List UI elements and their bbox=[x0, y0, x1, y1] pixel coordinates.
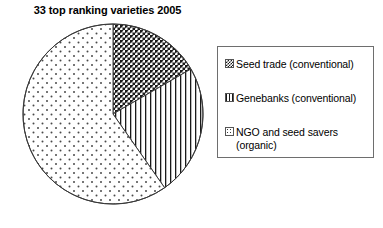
legend-item-genebanks: Genebanks (conventional) bbox=[225, 92, 371, 105]
chart-legend: Seed trade (conventional) Genebanks (con… bbox=[217, 46, 374, 158]
legend-item-ngo-seed-savers: NGO and seed savers (organic) bbox=[225, 126, 371, 151]
pie-chart-figure: 33 top ranking varieties 2005 bbox=[0, 0, 383, 228]
legend-label-ngo-seed-savers: NGO and seed savers (organic) bbox=[236, 126, 338, 151]
legend-label-genebanks: Genebanks (conventional) bbox=[236, 92, 356, 105]
checkerboard-swatch-icon bbox=[225, 59, 234, 68]
legend-label-seed-trade: Seed trade (conventional) bbox=[236, 58, 354, 71]
dots-swatch-icon bbox=[225, 127, 234, 136]
vertical-lines-swatch-icon bbox=[225, 93, 234, 102]
legend-item-seed-trade: Seed trade (conventional) bbox=[225, 58, 371, 71]
